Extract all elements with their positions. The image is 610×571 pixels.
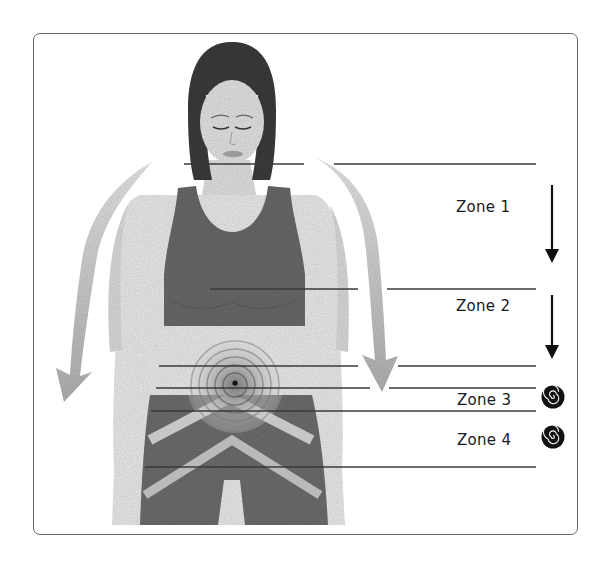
zone-label-1: Zone 1 — [456, 198, 510, 216]
down-arrow-icon — [545, 185, 559, 263]
spiral-icon — [542, 425, 565, 449]
navel — [232, 380, 237, 385]
mouth — [223, 151, 243, 157]
zone-label-2: Zone 2 — [456, 297, 510, 315]
zone-label-3: Zone 3 — [457, 391, 511, 409]
spiral-icon — [542, 385, 565, 409]
belly-spiral — [187, 337, 283, 433]
down-arrow-icon — [545, 295, 559, 359]
zone-label-4: Zone 4 — [457, 431, 511, 449]
body-illustration — [0, 0, 610, 571]
